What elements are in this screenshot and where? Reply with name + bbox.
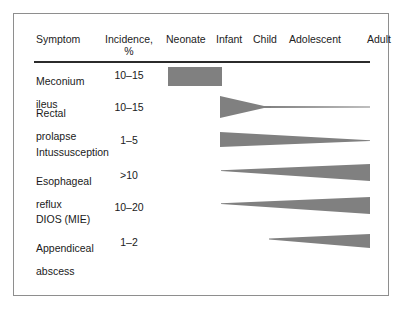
column-header-neonate: Neonate (166, 33, 206, 45)
column-header-incidence: Incidence, % (98, 33, 160, 57)
row-band-graphic (152, 196, 378, 220)
column-header-adult: Adult (367, 33, 391, 45)
row-incidence-value: 10–15 (98, 70, 160, 82)
figure-frame: Symptom Incidence, % Neonate Infant Chil… (13, 13, 389, 296)
band-shape-taper-left (152, 196, 378, 220)
row-incidence-value: 1–2 (98, 237, 160, 249)
row-incidence-value: 1–5 (98, 135, 160, 147)
column-header-child: Child (253, 33, 277, 45)
row-incidence-value: 10–15 (98, 102, 160, 114)
row-symptom-line2: abscess (36, 266, 94, 278)
band-shape-taper-left (152, 163, 378, 187)
row-band-graphic (152, 130, 378, 152)
table-header: Symptom Incidence, % Neonate Infant Chil… (14, 14, 388, 62)
row-symptom-line1: Rectal (36, 108, 76, 120)
row-incidence-value: >10 (98, 170, 160, 182)
column-header-incidence-line1: Incidence, (98, 33, 160, 45)
column-header-symptom: Symptom (36, 33, 80, 45)
row-symptom-line1: Appendiceal (36, 243, 94, 255)
band-shape-taper-right (152, 94, 378, 120)
column-header-incidence-line2: % (98, 45, 160, 57)
column-header-infant: Infant (216, 33, 242, 45)
row-band-graphic (152, 233, 378, 255)
row-incidence-value: 10–20 (98, 202, 160, 214)
row-band-graphic (152, 163, 378, 187)
column-header-adolescent: Adolescent (289, 33, 341, 45)
band-shape-taper-right (152, 130, 378, 152)
row-symptom-line1: Intussusception (36, 147, 109, 159)
row-symptom-label: Appendiceal abscess (36, 231, 94, 289)
row-symptom-line1: Esophageal (36, 176, 91, 188)
row-symptom-line1: Meconium (36, 76, 84, 88)
row-band-graphic (152, 94, 378, 120)
band-shape-rectangle (152, 65, 378, 87)
row-band-graphic (152, 65, 378, 87)
row-symptom-line1: DIOS (MIE) (36, 214, 90, 226)
table-body: Meconium ileus 10–15 Rectal prolapse 10–… (14, 62, 388, 297)
band-shape-taper-left (152, 233, 378, 255)
